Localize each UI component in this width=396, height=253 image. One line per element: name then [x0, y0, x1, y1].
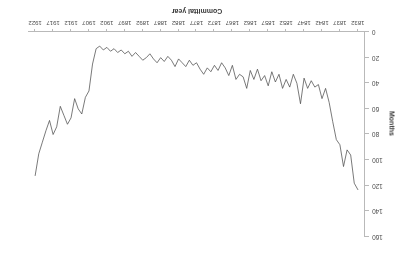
x-axis-title: Committal year [0, 8, 394, 15]
series-line-mean-sentence-length [35, 46, 358, 190]
y-axis-title: Months [389, 111, 396, 136]
